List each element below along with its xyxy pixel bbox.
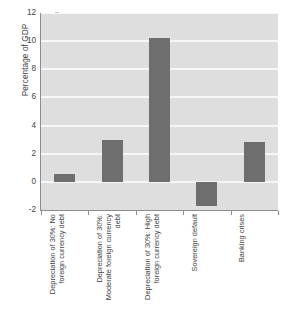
y-axis-tick-label: 6	[18, 93, 36, 101]
y-axis-tick-labels: -2024681012	[18, 0, 36, 215]
y-axis-tick-label: 2	[18, 150, 36, 158]
y-axis-tick-label: 4	[18, 121, 36, 129]
bar	[149, 38, 170, 182]
bar	[244, 142, 265, 182]
x-axis-tick-label: Depreciation of 30%: No foreign currency…	[48, 214, 82, 314]
x-axis-tick-label: Sovereign default	[190, 214, 224, 314]
x-axis-tick-label: Banking crises	[237, 214, 271, 314]
gridline	[41, 13, 278, 14]
x-axis-tick-labels: Depreciation of 30%: No foreign currency…	[0, 214, 286, 315]
x-axis-line	[40, 210, 278, 211]
y-axis-tick-label: 10	[18, 37, 36, 45]
bar	[196, 182, 217, 206]
bar-chart-figure: Percentage of GDP -2024681012 Depreciati…	[0, 0, 286, 315]
plot-area	[41, 13, 278, 210]
x-axis-tick-label: Depreciation of 30%: High foreign curren…	[143, 214, 177, 314]
y-axis-tick-label: 8	[18, 65, 36, 73]
bar	[102, 140, 123, 182]
y-axis-tick-label: -2	[18, 206, 36, 214]
y-axis-tick-label: 12	[18, 9, 36, 17]
y-axis-tick-label: 0	[18, 178, 36, 186]
x-axis-tick-label: Depreciation of 30%: Moderate foreign cu…	[95, 214, 129, 314]
bar	[54, 174, 75, 182]
